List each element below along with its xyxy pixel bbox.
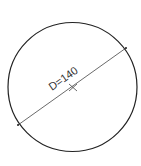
diameter-endpoint-start <box>17 124 19 126</box>
dimension-label: D=140 <box>46 64 80 93</box>
diagram-canvas: D=140 <box>0 0 141 166</box>
diameter-endpoint-end <box>125 47 127 49</box>
